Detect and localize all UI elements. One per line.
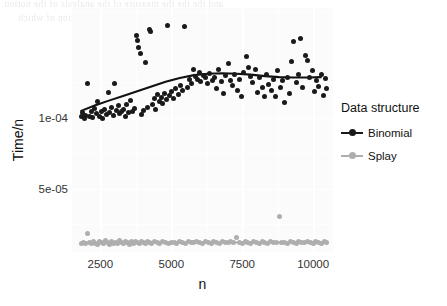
data-point-binomial (143, 60, 148, 65)
data-point-binomial (285, 75, 290, 80)
trend-lines (72, 8, 333, 252)
y-tick-label: 1e-04 (39, 112, 68, 124)
legend-key-point (349, 152, 356, 159)
scatter-plot-figure: and the the the measure of the analysis … (0, 0, 447, 306)
legend-entry-splay[interactable]: Splay (341, 145, 445, 166)
data-point-binomial (116, 103, 121, 108)
data-point-binomial (269, 88, 274, 93)
data-point-binomial (260, 85, 265, 90)
data-point-binomial (221, 91, 226, 96)
data-point-binomial (316, 84, 321, 89)
legend-key-icon (341, 126, 363, 140)
x-tick-label: 5000 (158, 258, 184, 270)
x-axis-title: n (72, 276, 333, 292)
data-point-binomial (212, 75, 217, 80)
data-point-binomial (323, 76, 328, 81)
data-point-binomial (106, 90, 111, 95)
data-point-binomial (321, 93, 326, 98)
plot-panel (72, 8, 333, 252)
x-tick-label: 7500 (229, 258, 255, 270)
data-point-binomial (298, 36, 303, 41)
legend-key-icon (341, 149, 363, 163)
data-point-binomial (239, 94, 244, 99)
y-axis-title: Time/n (10, 100, 26, 180)
data-point-binomial (271, 77, 276, 82)
data-point-binomial (237, 77, 242, 82)
data-point-binomial (171, 96, 176, 101)
y-tick-label: 5e-05 (39, 183, 68, 195)
data-point-binomial (278, 85, 283, 90)
data-point-binomial (164, 97, 169, 102)
data-point-binomial (219, 79, 224, 84)
data-point-binomial (294, 80, 299, 85)
data-point-binomial (235, 88, 240, 93)
data-point-binomial (226, 61, 231, 66)
legend-title: Data structure (341, 101, 445, 115)
data-point-binomial (150, 102, 155, 107)
data-point-binomial (85, 81, 90, 86)
legend-entry-binomial[interactable]: Binomial (341, 122, 445, 143)
data-point-binomial (310, 68, 315, 73)
legend-entries: BinomialSplay (341, 122, 445, 166)
data-point-binomial (287, 91, 292, 96)
data-point-binomial (244, 54, 249, 59)
legend-label: Splay (368, 150, 397, 162)
data-point-binomial (111, 113, 116, 118)
data-point-binomial (123, 114, 128, 119)
legend-key-point (349, 129, 356, 136)
data-point-binomial (132, 106, 137, 111)
x-tick-label: 2500 (88, 258, 114, 270)
data-point-binomial (138, 51, 143, 56)
legend-label: Binomial (368, 127, 412, 139)
data-point-binomial (312, 89, 317, 94)
x-tick-label: 10000 (297, 258, 329, 270)
x-axis-tick-labels: 25005000750010000 (0, 258, 447, 274)
data-point-binomial (145, 105, 150, 110)
data-point-binomial (246, 65, 251, 70)
legend: Data structure BinomialSplay (341, 101, 445, 168)
